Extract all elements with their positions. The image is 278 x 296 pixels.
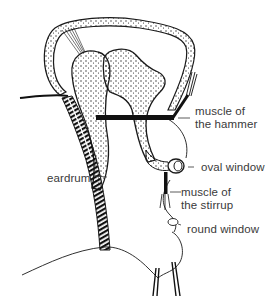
label-oval-window: oval window — [201, 161, 265, 174]
stirrup-muscle — [160, 172, 170, 210]
label-muscle-of-the-hammer-line1: muscle of — [195, 105, 245, 118]
lower-outline — [22, 247, 158, 278]
chorda-tympani — [20, 95, 68, 98]
label-muscle-of-the-stirrup-line2: the stirrup — [181, 199, 233, 212]
label-round-window: round window — [187, 223, 259, 236]
middle-ear-illustration — [0, 0, 278, 296]
label-eardrum: eardrum — [47, 172, 91, 185]
anvil-bone — [103, 49, 165, 162]
round-window — [168, 219, 178, 226]
label-muscle-of-the-hammer-line2: the hammer — [195, 118, 257, 131]
label-muscle-of-the-stirrup-line1: muscle of — [181, 186, 231, 199]
lower-nerves — [153, 262, 180, 296]
